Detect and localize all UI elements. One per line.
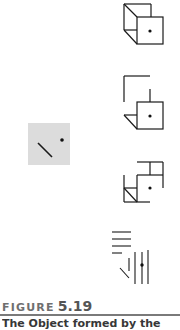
cube-complete bbox=[124, 4, 163, 44]
cube-partial-2 bbox=[124, 162, 163, 202]
caption-text: The Object formed by the bbox=[2, 317, 161, 330]
line-fragments bbox=[112, 232, 148, 284]
stimulus-panel bbox=[28, 123, 70, 165]
figure-label-word: FIGURE bbox=[2, 301, 55, 314]
figure-label: FIGURE5.19 bbox=[2, 296, 92, 315]
cube-partial-1 bbox=[124, 76, 163, 129]
figure-illustration bbox=[0, 0, 180, 295]
figure-label-number: 5.19 bbox=[58, 298, 93, 314]
caption-divider bbox=[0, 314, 180, 316]
